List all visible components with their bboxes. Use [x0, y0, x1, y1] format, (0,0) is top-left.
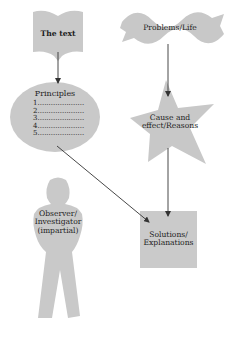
principles-title: Principles	[35, 89, 75, 98]
node-solutions: Solutions/ Explanations	[137, 231, 200, 248]
node-principles-title: Principles	[20, 90, 90, 98]
person-shape	[33, 178, 82, 319]
node-observer: Observer/ Investigator (impartial)	[28, 210, 88, 235]
cause-line-2: effect/Reasons	[135, 122, 205, 130]
solutions-line-2: Explanations	[137, 239, 200, 247]
node-cause-effect: Cause and effect/Reasons	[135, 114, 205, 131]
principles-list: 1..................... 2................…	[33, 100, 84, 138]
node-problems-life: Problems/Life	[130, 24, 210, 32]
observer-line-3: (impartial)	[28, 227, 88, 235]
problems-life-label: Problems/Life	[143, 23, 197, 32]
principles-item-5: 5.....................	[33, 130, 84, 138]
node-the-text: The text	[33, 30, 83, 38]
the-text-label: The text	[40, 29, 75, 38]
diagram-canvas	[0, 0, 234, 337]
